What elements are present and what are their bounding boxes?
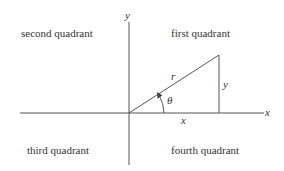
hypotenuse-label: r <box>171 70 176 82</box>
hypotenuse-r <box>129 55 219 113</box>
y-axis-label: y <box>124 9 130 21</box>
second-quadrant-label: second quadrant <box>21 27 93 39</box>
x-axis-label: x <box>264 106 270 118</box>
angle-arc <box>159 95 165 114</box>
third-quadrant-label: third quadrant <box>27 144 89 156</box>
fourth-quadrant-label: fourth quadrant <box>171 144 239 156</box>
adjacent-label: x <box>180 114 186 126</box>
first-quadrant-label: first quadrant <box>171 27 230 39</box>
opposite-label: y <box>222 78 228 90</box>
coordinate-diagram: y x second quadrant first quadrant third… <box>0 0 284 171</box>
angle-theta-label: θ <box>167 94 173 106</box>
